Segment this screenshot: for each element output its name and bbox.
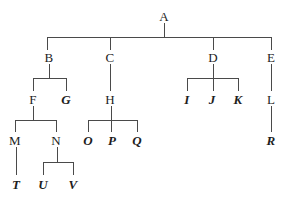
edge-j-drop — [213, 78, 214, 91]
tree-node-v: V — [69, 178, 78, 191]
tree-node-h: H — [105, 93, 115, 106]
edge-n-drop — [56, 120, 57, 132]
edge-d-drop — [213, 37, 214, 50]
edge-a-bus — [47, 37, 272, 38]
tree-node-f: F — [29, 93, 36, 106]
tree-node-q: Q — [132, 134, 142, 147]
tree-node-t: T — [12, 178, 20, 191]
edge-g-drop — [66, 78, 67, 91]
tree-node-c: C — [106, 51, 115, 64]
edge-b-bus — [33, 78, 67, 79]
edge-n-stem — [57, 147, 58, 162]
tree-diagram: ABCDEFGHIJKLMNOPQRTUV — [0, 0, 285, 208]
tree-node-k: K — [234, 93, 243, 106]
tree-node-m: M — [9, 134, 21, 147]
edge-b-stem — [49, 64, 50, 78]
edge-m-t — [16, 147, 17, 175]
tree-node-b: B — [45, 51, 54, 64]
tree-node-r: R — [267, 134, 276, 147]
edge-f-bus — [15, 120, 57, 121]
edge-e-l — [271, 64, 272, 91]
tree-node-o: O — [83, 134, 93, 147]
edge-o-drop — [88, 120, 89, 132]
edge-h-bus — [88, 120, 137, 121]
tree-node-e: E — [267, 51, 275, 64]
tree-node-d: D — [208, 51, 218, 64]
edge-l-r — [271, 106, 272, 132]
tree-node-u: U — [38, 178, 48, 191]
tree-node-i: I — [184, 93, 189, 106]
tree-node-g: G — [61, 93, 71, 106]
edge-h-stem — [111, 106, 112, 132]
tree-node-l: L — [267, 93, 275, 106]
edge-f-drop — [33, 78, 34, 91]
edge-n-bus — [43, 162, 74, 163]
edge-q-drop — [137, 120, 138, 132]
edge-f-stem — [33, 106, 34, 120]
edge-e-drop — [271, 37, 272, 50]
edge-u-drop — [43, 162, 44, 175]
edge-v-drop — [73, 162, 74, 175]
tree-node-a: A — [159, 10, 169, 23]
tree-node-j: J — [209, 93, 216, 106]
edge-k-drop — [238, 78, 239, 91]
tree-node-p: P — [108, 134, 116, 147]
edge-m-drop — [15, 120, 16, 132]
tree-node-n: N — [51, 134, 61, 147]
edge-d-stem — [213, 64, 214, 78]
edge-i-drop — [187, 78, 188, 91]
edge-a-stem — [164, 23, 165, 37]
edge-b-drop — [47, 37, 48, 50]
edge-c-drop — [110, 37, 111, 50]
edge-c-h — [110, 64, 111, 91]
